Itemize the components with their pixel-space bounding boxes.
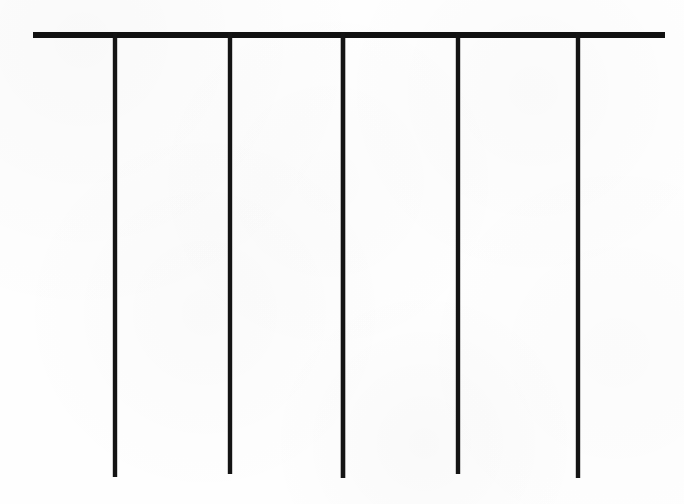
figure-canvas [0,0,684,504]
line-drawing [0,0,684,504]
vertical-tines-group [115,33,578,478]
